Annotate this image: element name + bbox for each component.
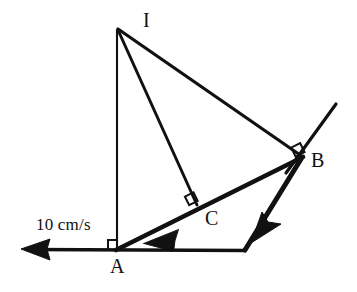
point-label-C: C	[205, 208, 218, 228]
point-label-A: A	[110, 256, 124, 276]
velocity-arrow-at-A	[21, 239, 50, 260]
horizontal-ground-line	[30, 250, 246, 251]
point-label-I: I	[143, 10, 150, 30]
right-angle-at-B	[291, 143, 304, 156]
speed-annotation-label: 10 cm/s	[36, 216, 91, 233]
geometry-diagram	[0, 0, 357, 292]
point-label-B: B	[311, 150, 324, 170]
